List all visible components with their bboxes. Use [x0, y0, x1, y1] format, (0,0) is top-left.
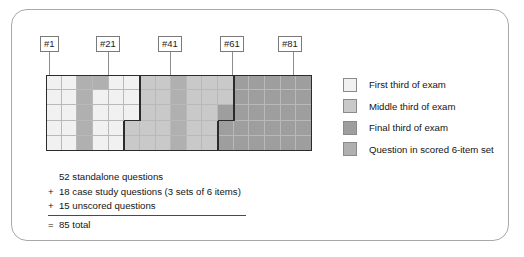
grid-cell: [46, 121, 62, 136]
grid-cell: [124, 136, 140, 151]
grid-cell: [77, 121, 93, 136]
grid-cell: [281, 90, 297, 105]
summary-line: =85 total: [48, 218, 282, 233]
grid-cell: [109, 75, 125, 90]
summary-line: +15 unscored questions: [48, 199, 282, 214]
grid-cell: [93, 121, 109, 136]
grid-cell: [156, 121, 172, 136]
legend-item: Question in scored 6-item set: [343, 139, 494, 161]
grid-cell: [77, 105, 93, 120]
grid-cell: [187, 121, 203, 136]
grid-cell: [234, 75, 250, 90]
grid-cell: [202, 136, 218, 151]
grid-cell: [218, 121, 234, 136]
grid-cell: [109, 105, 125, 120]
summary-text: 18 case study questions (3 sets of 6 ite…: [59, 186, 241, 197]
grid-cell: [218, 136, 234, 151]
grid-cell: [187, 90, 203, 105]
summary-text: 15 unscored questions: [59, 200, 156, 211]
grid-cell: [202, 121, 218, 136]
summary-rule: [48, 215, 246, 216]
callout-leader-line: [293, 52, 294, 75]
grid-cell: [62, 90, 78, 105]
legend-label: Middle third of exam: [369, 101, 455, 112]
grid-cell: [124, 75, 140, 90]
grid-cell: [62, 105, 78, 120]
grid-cell: [124, 90, 140, 105]
legend-item: Final third of exam: [343, 117, 494, 139]
grid-cell: [281, 105, 297, 120]
grid-cell: [234, 105, 250, 120]
grid-cell: [93, 75, 109, 90]
grid-cell: [187, 105, 203, 120]
grid-cell: [265, 136, 281, 151]
grid-cell: [171, 105, 187, 120]
grid-cell: [156, 136, 172, 151]
legend-swatch: [343, 78, 357, 92]
grid-cell: [281, 136, 297, 151]
grid-cell: [296, 105, 312, 120]
grid-cell: [140, 121, 156, 136]
grid-cell: [296, 136, 312, 151]
callout-leader-line: [170, 52, 171, 75]
grid-cell: [171, 90, 187, 105]
grid-cell: [234, 90, 250, 105]
grid-cell: [77, 90, 93, 105]
callout-label-q1: #1: [40, 36, 59, 52]
grid-cell: [218, 90, 234, 105]
grid-cell: [124, 121, 140, 136]
grid-cell: [202, 75, 218, 90]
grid-cell: [296, 75, 312, 90]
summary-text: 52 standalone questions: [59, 171, 163, 182]
grid-cell: [93, 105, 109, 120]
summary-block: 52 standalone questions+18 case study qu…: [48, 170, 282, 232]
grid-cell: [296, 121, 312, 136]
grid-cell: [109, 90, 125, 105]
grid-cell: [265, 90, 281, 105]
callout-label-q41: #41: [158, 36, 182, 52]
callout-label-q21: #21: [96, 36, 120, 52]
grid-cell: [281, 75, 297, 90]
grid-cell: [281, 121, 297, 136]
grid-cell: [249, 90, 265, 105]
grid-cell: [77, 136, 93, 151]
grid-cell: [93, 136, 109, 151]
summary-operator: =: [48, 218, 59, 233]
grid-cell: [171, 75, 187, 90]
summary-operator: +: [48, 185, 59, 200]
summary-line: +18 case study questions (3 sets of 6 it…: [48, 185, 282, 200]
grid-cell: [109, 121, 125, 136]
grid-cell: [202, 90, 218, 105]
grid-cell: [265, 75, 281, 90]
grid-cell: [124, 105, 140, 120]
callout-label-q81: #81: [278, 36, 302, 52]
grid-cell: [234, 121, 250, 136]
grid-cell: [202, 105, 218, 120]
legend-label: First third of exam: [369, 79, 446, 90]
grid-cell: [46, 90, 62, 105]
grid-cell: [109, 136, 125, 151]
grid-cell: [156, 90, 172, 105]
legend-swatch: [343, 121, 357, 135]
legend-label: Question in scored 6-item set: [369, 144, 494, 155]
grid-cell: [62, 136, 78, 151]
grid-cell: [171, 136, 187, 151]
grid-cell: [62, 75, 78, 90]
summary-operator: +: [48, 199, 59, 214]
callout-leader-line: [49, 52, 50, 75]
grid-cell: [249, 75, 265, 90]
grid-cell: [218, 105, 234, 120]
grid-cell: [296, 90, 312, 105]
legend: First third of examMiddle third of examF…: [343, 74, 494, 160]
grid-cell: [265, 105, 281, 120]
grid-cell: [140, 136, 156, 151]
grid-cell: [187, 75, 203, 90]
legend-swatch: [343, 142, 357, 156]
callout-label-q61: #61: [220, 36, 244, 52]
grid-cell: [249, 136, 265, 151]
grid-cell: [62, 121, 78, 136]
question-grid-cells: [46, 75, 312, 151]
grid-cell: [265, 121, 281, 136]
grid-cell: [140, 105, 156, 120]
grid-cell: [46, 105, 62, 120]
